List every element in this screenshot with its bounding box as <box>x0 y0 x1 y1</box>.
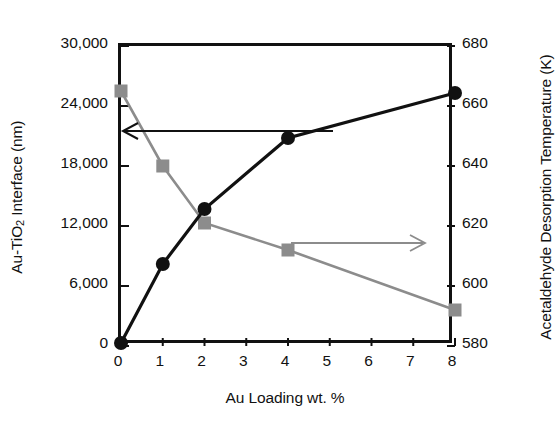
series-gray-line <box>121 91 455 310</box>
y-axis-right-title: Acetaldehyde Desorption Temperature (K) <box>537 27 555 367</box>
axis-tickmarks <box>121 46 455 346</box>
x-axis-tick-2: 2 <box>197 352 206 370</box>
x-axis-tick-7: 7 <box>406 352 415 370</box>
x-axis-title: Au Loading wt. % <box>118 389 452 407</box>
x-axis-tick-5: 5 <box>322 352 331 370</box>
y-axis-left-tick-0: 0 <box>99 334 108 352</box>
x-axis-tick-3: 3 <box>239 352 248 370</box>
y-axis-right-tick-620: 620 <box>462 214 488 232</box>
data-point-2-621 <box>198 217 211 230</box>
y-axis-left-tick-24000: 24,000 <box>61 94 108 112</box>
data-point-1-8200 <box>156 257 170 271</box>
data-point-8-25300 <box>448 86 462 100</box>
y-axis-left-title-pre: Au-TiO <box>8 226 25 274</box>
x-axis-tick-1: 1 <box>155 352 164 370</box>
data-point-0-665 <box>115 85 128 98</box>
data-point-4-20800 <box>281 131 295 145</box>
x-axis-tick-6: 6 <box>364 352 373 370</box>
y-axis-left-tick-18000: 18,000 <box>61 154 108 172</box>
y-axis-left-tick-30000: 30,000 <box>61 34 108 52</box>
plot-area <box>118 43 452 343</box>
data-point-4-612 <box>282 244 295 257</box>
y-axis-right-tick-600: 600 <box>462 274 488 292</box>
y-axis-left-title-subscript: 2 <box>14 220 26 226</box>
data-point-0-300 <box>114 336 128 350</box>
series-acetaldehyde-desorption-temperature <box>115 85 462 317</box>
series-au-tio2-interface <box>114 86 462 350</box>
y-axis-right-tick-660: 660 <box>462 94 488 112</box>
data-point-8-592 <box>449 304 462 317</box>
y-axis-right-tick-580: 580 <box>462 334 488 352</box>
axis-pointer-annotations <box>123 123 425 251</box>
y-axis-left-tick-12000: 12,000 <box>61 214 108 232</box>
y-axis-left-title-post: Interface (nm) <box>8 121 25 220</box>
x-axis-tick-8: 8 <box>448 352 457 370</box>
x-axis-tick-4: 4 <box>281 352 290 370</box>
y-axis-left-title: Au-TiO2 Interface (nm) <box>8 37 26 357</box>
x-axis-tick-0: 0 <box>114 352 123 370</box>
y-axis-right-tick-680: 680 <box>462 34 488 52</box>
y-axis-right-tick-640: 640 <box>462 154 488 172</box>
data-point-1-640 <box>156 160 169 173</box>
data-point-2-13700 <box>198 202 212 216</box>
plot-svg <box>121 46 455 346</box>
y-axis-left-tick-6000: 6,000 <box>69 274 108 292</box>
